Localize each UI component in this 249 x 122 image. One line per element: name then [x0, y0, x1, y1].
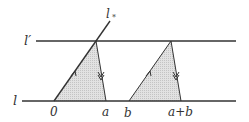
triangle-0-a	[54, 41, 106, 101]
label-l-star: l	[106, 7, 110, 21]
label-zero: 0	[50, 105, 58, 119]
label-l: l	[13, 93, 17, 108]
label-l-prime: l′	[24, 33, 31, 48]
label-a: a	[102, 105, 109, 119]
label-l-star-sub: *	[112, 13, 116, 22]
label-a-plus-b: a+b	[168, 105, 193, 119]
triangle-b-a-plus-b	[129, 41, 181, 101]
label-b: b	[124, 106, 132, 120]
parallel-lines-addition-diagram: l * l′ l 0 a b a+b	[0, 0, 249, 122]
